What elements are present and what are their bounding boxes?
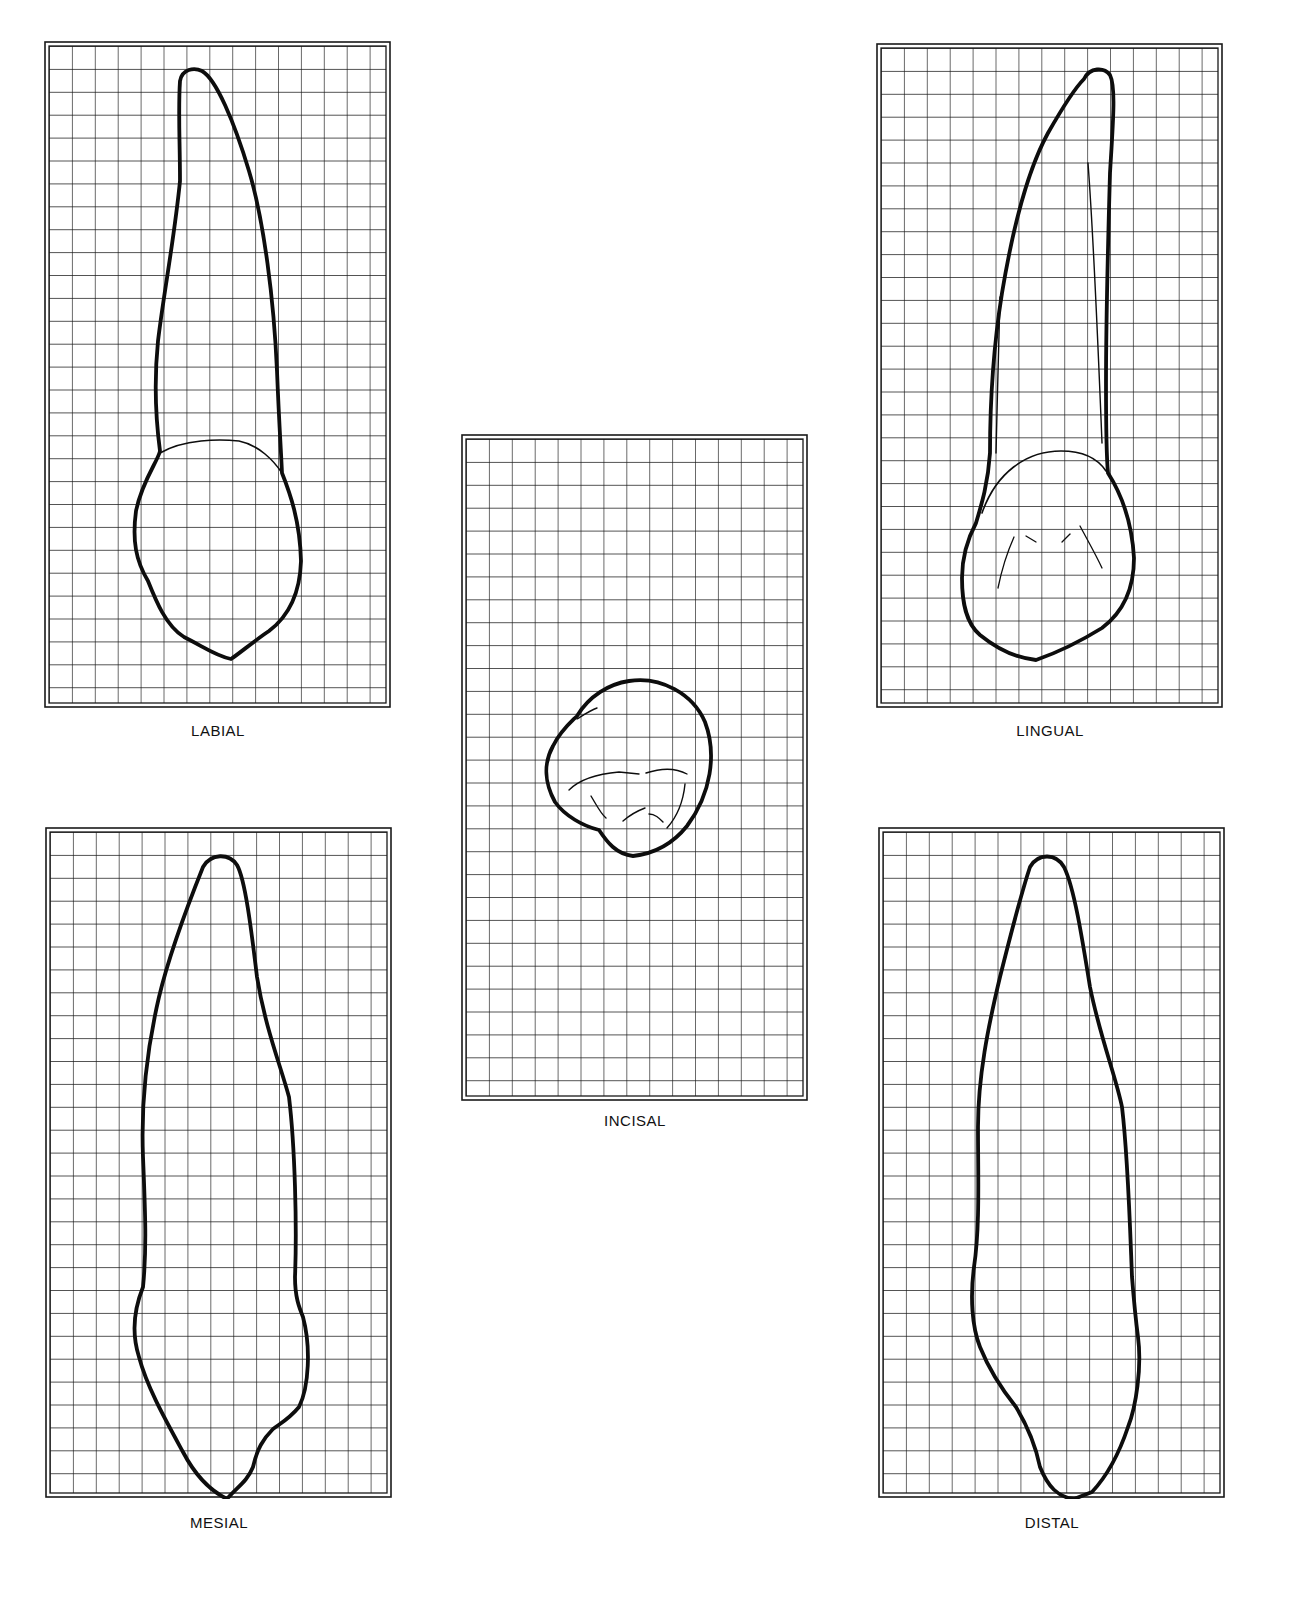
incisal-view-panel: INCISAL: [461, 434, 809, 1102]
labial-view-panel: LABIAL: [44, 41, 392, 709]
incisal-grid: [461, 434, 809, 1102]
mesial-caption: MESIAL: [45, 1514, 393, 1531]
labial-caption: LABIAL: [44, 722, 392, 739]
distal-grid: [878, 827, 1226, 1499]
distal-caption: DISTAL: [878, 1514, 1226, 1531]
lingual-grid: [876, 43, 1224, 709]
mesial-view-panel: MESIAL: [45, 827, 393, 1499]
labial-grid: [44, 41, 392, 709]
incisal-caption: INCISAL: [461, 1112, 809, 1129]
lingual-view-panel: LINGUAL: [876, 43, 1224, 709]
lingual-caption: LINGUAL: [876, 722, 1224, 739]
mesial-grid: [45, 827, 393, 1499]
distal-view-panel: DISTAL: [878, 827, 1226, 1499]
